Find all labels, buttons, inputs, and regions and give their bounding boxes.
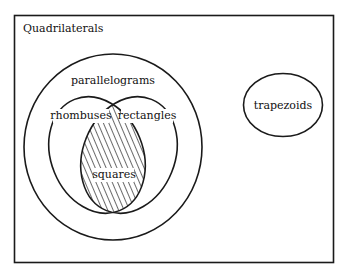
- universe-label: Quadrilaterals: [23, 22, 104, 35]
- rhombuses-label: rhombuses: [50, 109, 112, 122]
- rectangles-label: rectangles: [118, 109, 177, 122]
- parallelograms-label: parallelograms: [71, 74, 155, 87]
- trapezoids-label: trapezoids: [254, 99, 313, 112]
- venn-diagram: Quadrilaterals parallelograms rhombuses …: [0, 0, 348, 280]
- universe-box: [15, 16, 334, 263]
- squares-label: squares: [92, 168, 136, 181]
